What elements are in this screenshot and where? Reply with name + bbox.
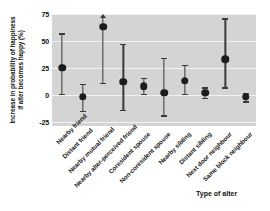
y-tick-label: -25 (30, 118, 49, 125)
y-axis-tick-labels: 7550250-25 (30, 0, 49, 211)
error-bar-cap-lower (243, 101, 249, 102)
y-axis-title-line2: if alter becomes happy (%) (17, 30, 24, 110)
data-point (120, 78, 128, 86)
error-bar-cap-upper (222, 18, 228, 19)
data-point (201, 89, 209, 97)
error-bar-cap-upper (182, 65, 188, 66)
error-bar-cap-upper (80, 84, 86, 85)
error-bar-cap-lower (100, 83, 106, 84)
y-axis-title-line1: Increase in probability of happiness (9, 16, 16, 123)
y-tick-label: 75 (30, 11, 49, 18)
data-series (52, 14, 256, 126)
y-tick-label: 25 (30, 64, 49, 71)
error-bar-cap-lower (59, 94, 65, 95)
y-tick-label: 0 (30, 91, 49, 98)
x-tick-label: Nearby friend (55, 130, 70, 145)
error-bar (123, 44, 124, 110)
error-bar-cap-lower (141, 94, 147, 95)
error-bar-cap-lower (222, 87, 228, 88)
error-bar-cap-lower (120, 110, 126, 111)
ci-clipped-arrow-icon (100, 14, 106, 18)
y-tick-label: 50 (30, 37, 49, 44)
error-bar-cap-lower (182, 94, 188, 95)
error-bar-cap-upper (141, 78, 147, 79)
data-point (79, 93, 87, 101)
data-point (99, 23, 107, 31)
error-bar (225, 18, 226, 87)
error-bar-cap-lower (202, 98, 208, 99)
data-point (140, 82, 148, 90)
data-point (242, 93, 250, 101)
data-point (160, 89, 168, 97)
chart-figure: Increase in probability of happiness if … (0, 0, 270, 211)
error-bar-cap-lower (161, 115, 167, 116)
x-axis-title: Type of alter (196, 190, 237, 197)
error-bar-cap-upper (59, 33, 65, 34)
error-bar (164, 58, 165, 115)
y-axis-title: Increase in probability of happiness if … (2, 6, 32, 134)
error-bar-cap-upper (161, 58, 167, 59)
plot-area (52, 14, 256, 126)
data-point (181, 77, 189, 85)
data-point (222, 55, 230, 63)
error-bar-cap-upper (120, 44, 126, 45)
data-point (58, 64, 66, 72)
